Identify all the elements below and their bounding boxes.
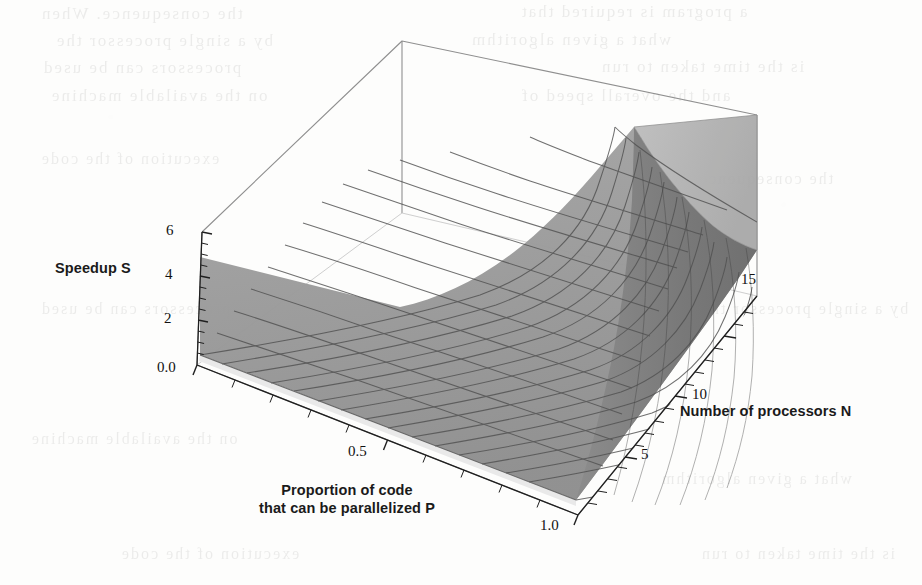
x-axis-title-line1: Proportion of code (222, 481, 472, 499)
z-tick-label-4: 4 (165, 266, 173, 283)
x-tick-label-10: 1.0 (540, 517, 559, 534)
x-tick-label-0: 0.0 (157, 359, 176, 376)
y-tick-label-15: 15 (741, 271, 756, 288)
z-axis-title: Speedup S (55, 260, 131, 276)
y-tick-label-10: 10 (692, 386, 707, 403)
x-axis-title-line2: that can be parallelized P (222, 499, 472, 517)
z-tick-label-6: 6 (166, 222, 174, 239)
y-tick-label-5: 5 (641, 446, 649, 463)
y-axis-title: Number of processors N (680, 403, 851, 419)
z-tick-label-2: 2 (164, 310, 172, 327)
scanned-page: the consequence. When a program is requi… (0, 0, 922, 585)
x-axis-title: Proportion of code that can be paralleli… (222, 481, 472, 518)
x-tick-label-05: 0.5 (348, 443, 367, 460)
